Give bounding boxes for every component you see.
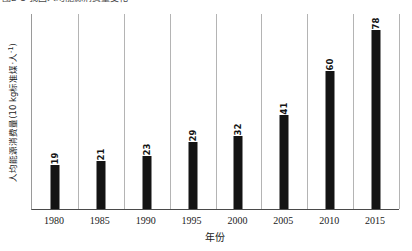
plot-area: 1921232932416078 [31,14,399,210]
bar-value-label: 78 [372,14,381,34]
bar[interactable] [142,156,151,209]
figure-caption: 图2-1 我国人均能源消费量变化 [2,0,128,3]
x-tick-label: 2015 [352,214,398,228]
bar-slot[interactable]: 29 [170,14,216,209]
x-tick-label: 1985 [77,214,123,228]
bar-value-label: 19 [50,149,59,169]
x-tick-label: 2005 [260,214,306,228]
bar-slot[interactable]: 60 [307,14,353,209]
bar-value-label: 41 [280,98,289,118]
bars-layer: 1921232932416078 [32,14,399,209]
bar-slot[interactable]: 78 [353,14,399,209]
bar-slot[interactable]: 21 [78,14,124,209]
x-axis-title: 年份 [31,231,399,244]
bar[interactable] [326,71,335,209]
bar[interactable] [372,30,381,209]
bar-value-label: 21 [96,144,105,164]
x-tick-label: 1995 [169,214,215,228]
x-tick-label: 2010 [306,214,352,228]
bar[interactable] [234,136,243,209]
bar-value-label: 32 [234,119,243,139]
bar-slot[interactable]: 23 [124,14,170,209]
bar-slot[interactable]: 32 [216,14,262,209]
bar-value-label: 60 [326,55,335,75]
x-tick-label: 1990 [123,214,169,228]
bar-value-label: 23 [142,140,151,160]
bar-slot[interactable]: 19 [32,14,78,209]
x-tick-label: 2000 [215,214,261,228]
gridline [399,14,400,209]
bar[interactable] [188,142,197,209]
bar-chart-figure: 人均能源消费量(10 kg标准煤·人-1) 1921232932416078 1… [0,9,412,251]
y-axis-title-superscript: -1 [7,46,15,52]
y-axis-title: 人均能源消费量(10 kg标准煤·人-1) [6,12,19,212]
bar[interactable] [280,115,289,209]
x-axis-tick-labels: 19801985199019952000200520102015 [31,214,399,230]
y-axis-title-tail: ) [8,43,18,46]
bar[interactable] [50,165,59,209]
y-axis-title-main: 人均能源消费量(10 kg标准煤·人 [8,53,18,182]
bar[interactable] [96,161,105,209]
bar-slot[interactable]: 41 [261,14,307,209]
x-tick-label: 1980 [31,214,77,228]
bar-value-label: 29 [188,126,197,146]
caption-strip: 图2-1 我国人均能源消费量变化 [0,0,412,9]
